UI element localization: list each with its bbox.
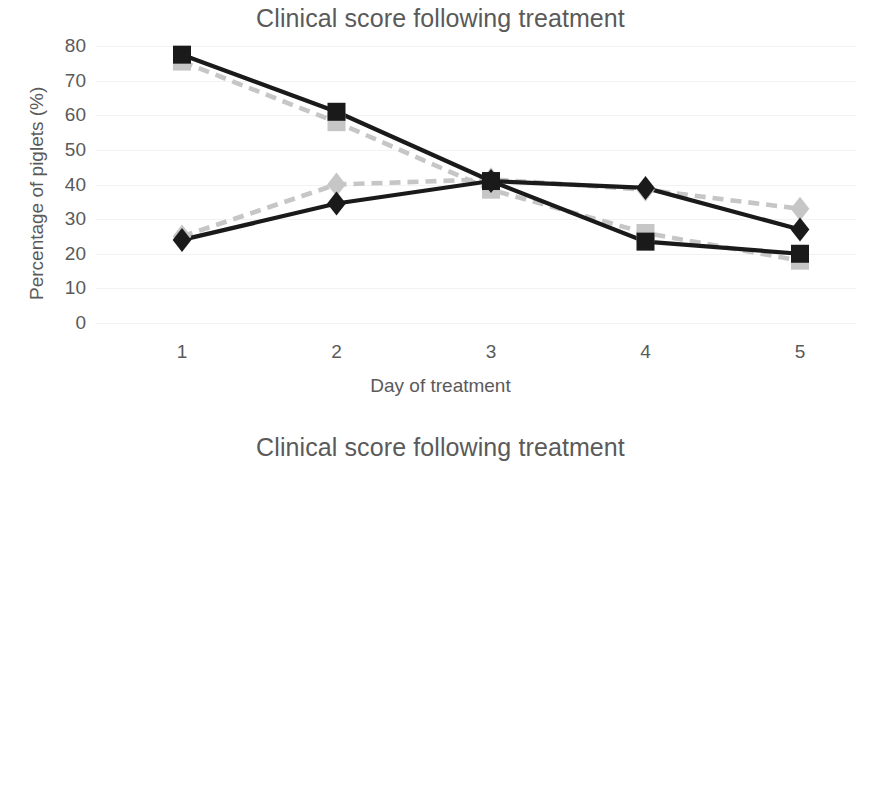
x-axis-label: Day of treatment: [0, 375, 881, 397]
data-point-marker: [637, 233, 655, 251]
x-tick-label: 3: [461, 342, 521, 361]
series-line: [182, 62, 800, 261]
chart-figure-top: Clinical score following treatment Perce…: [0, 0, 881, 400]
chart-figure-bottom: Clinical score following treatment Perce…: [0, 400, 881, 804]
y-tick-label: 10: [46, 278, 86, 297]
data-point-marker: [327, 192, 346, 216]
y-tick-label: 20: [46, 244, 86, 263]
data-point-marker: [636, 176, 655, 200]
data-point-marker: [791, 218, 810, 242]
series-line: [182, 55, 800, 254]
x-tick-label: 5: [770, 342, 830, 361]
y-tick-label: 30: [46, 209, 86, 228]
page-title: Clinical score following treatment: [0, 4, 881, 33]
y-tick-label: 50: [46, 140, 86, 159]
x-tick-label: 2: [307, 342, 367, 361]
data-point-marker: [173, 46, 191, 64]
data-point-marker: [173, 228, 192, 252]
data-point-marker: [328, 103, 346, 121]
y-tick-label: 0: [46, 313, 86, 332]
y-tick-label: 60: [46, 105, 86, 124]
data-point-marker: [791, 245, 809, 263]
x-tick-label: 1: [152, 342, 212, 361]
series-layer-top: [96, 46, 856, 323]
y-axis-label: Percentage of piglets (%): [26, 87, 48, 300]
plot-area-top: [96, 46, 856, 323]
page-title-secondary: Clinical score following treatment: [0, 433, 881, 462]
grid-line: [96, 323, 856, 324]
data-point-marker: [791, 197, 810, 221]
x-tick-label: 4: [616, 342, 676, 361]
y-tick-label: 40: [46, 175, 86, 194]
y-tick-label: 80: [46, 36, 86, 55]
y-tick-label: 70: [46, 71, 86, 90]
